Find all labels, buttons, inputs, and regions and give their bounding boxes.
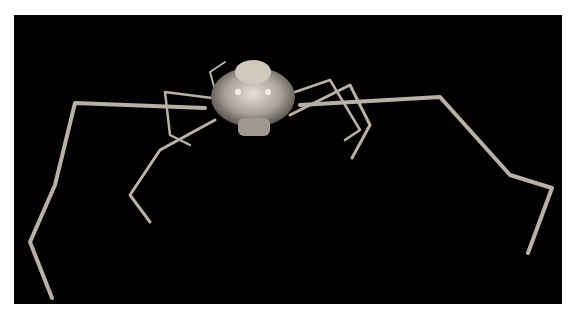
crab-illustration (0, 0, 572, 318)
carapace (211, 60, 295, 136)
